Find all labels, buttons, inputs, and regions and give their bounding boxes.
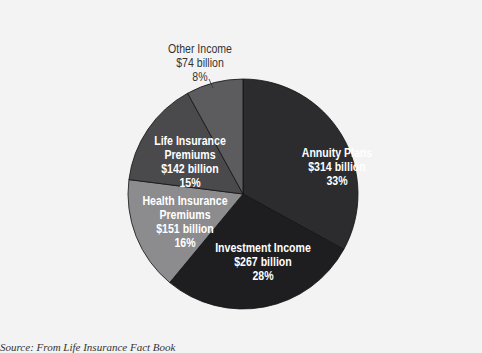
label-annuity-plans: Annuity Plans $314 billion 33% (289, 146, 386, 188)
label-life-insurance-premiums: Life Insurance Premiums $142 billion 15% (139, 134, 241, 190)
label-name: Other Income (156, 42, 244, 56)
label-name-2: Premiums (132, 208, 238, 222)
label-percent: 15% (139, 176, 241, 190)
label-health-insurance-premiums: Health Insurance Premiums $151 billion 1… (132, 194, 238, 250)
label-name: Annuity Plans (289, 146, 386, 160)
label-name: Health Insurance (132, 194, 238, 208)
label-percent: 28% (206, 269, 320, 283)
label-amount: $142 billion (139, 162, 241, 176)
label-name: Life Insurance (139, 134, 241, 148)
label-percent: 33% (289, 174, 386, 188)
label-name-2: Premiums (139, 148, 241, 162)
label-amount: $267 billion (206, 255, 320, 269)
label-other-income: Other Income $74 billion 8% (156, 42, 244, 84)
source-note: Source: From Life Insurance Fact Book (0, 341, 175, 353)
label-amount: $151 billion (132, 222, 238, 236)
label-amount: $74 billion (156, 56, 244, 70)
label-amount: $314 billion (289, 160, 386, 174)
label-percent: 16% (132, 236, 238, 250)
label-percent: 8% (156, 70, 244, 84)
